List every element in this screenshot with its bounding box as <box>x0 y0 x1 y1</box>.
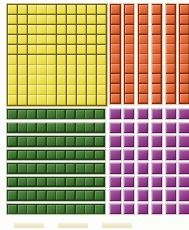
flat-unit-cell <box>87 95 96 104</box>
unit-cube-purple <box>166 136 177 146</box>
ten-rod-green <box>7 150 105 160</box>
flat-unit-cell <box>18 15 27 24</box>
rod-unit-cell <box>125 15 134 24</box>
flat-unit-cell <box>67 95 76 104</box>
unit-cube-purple <box>110 163 121 173</box>
flat-unit-cell <box>28 5 37 14</box>
flat-unit-cell <box>97 55 106 64</box>
rod-unit-cell <box>152 44 161 53</box>
rod-unit-cell <box>166 44 175 53</box>
ten-rod-orange <box>166 4 177 104</box>
rod-unit-cell <box>76 110 85 119</box>
flat-unit-cell <box>67 85 76 94</box>
hundred-flat-yellow <box>7 4 107 106</box>
rod-unit-cell <box>139 25 148 34</box>
rod-unit-cell <box>166 15 175 24</box>
rod-unit-cell <box>76 123 85 132</box>
rod-unit-cell <box>125 74 134 83</box>
rod-unit-cell <box>76 205 85 214</box>
flat-unit-cell <box>37 5 46 14</box>
rod-unit-cell <box>139 5 148 14</box>
rod-unit-cell <box>66 110 75 119</box>
rod-unit-cell <box>111 35 120 44</box>
flat-unit-cell <box>77 75 86 84</box>
flat-unit-cell <box>37 65 46 74</box>
rod-unit-cell <box>8 110 17 119</box>
rod-unit-cell <box>95 178 104 187</box>
rod-unit-cell <box>56 151 65 160</box>
rod-unit-cell <box>27 110 36 119</box>
unit-cube-purple <box>110 177 121 187</box>
flat-unit-cell <box>18 75 27 84</box>
flat-unit-cell <box>57 45 66 54</box>
rod-unit-cell <box>95 164 104 173</box>
flat-unit-cell <box>37 55 46 64</box>
unit-cube-purple <box>166 163 177 173</box>
legend-chip <box>102 223 132 228</box>
rod-unit-cell <box>85 123 94 132</box>
rod-unit-cell <box>76 137 85 146</box>
flat-unit-cell <box>67 65 76 74</box>
flat-unit-cell <box>57 55 66 64</box>
flat-unit-cell <box>28 15 37 24</box>
flat-unit-cell <box>87 45 96 54</box>
rod-unit-cell <box>56 205 65 214</box>
unit-cube-purple <box>179 163 189 173</box>
flat-unit-cell <box>87 65 96 74</box>
rod-unit-cell <box>95 123 104 132</box>
rod-unit-cell <box>111 84 120 93</box>
legend-chip <box>58 223 88 228</box>
rod-unit-cell <box>37 178 46 187</box>
rod-unit-cell <box>27 178 36 187</box>
flat-unit-cell <box>28 75 37 84</box>
ten-rod-green <box>7 204 105 214</box>
rod-unit-cell <box>125 84 134 93</box>
flat-unit-cell <box>57 5 66 14</box>
ten-rod-green <box>7 177 105 187</box>
unit-cube-purple <box>138 150 149 160</box>
unit-cube-purple <box>152 163 163 173</box>
flat-unit-cell <box>47 95 56 104</box>
rod-unit-cell <box>95 151 104 160</box>
flat-unit-cell <box>28 45 37 54</box>
rod-unit-cell <box>111 74 120 83</box>
unit-cube-purple <box>152 136 163 146</box>
unit-cube-purple <box>152 109 163 119</box>
rod-unit-cell <box>125 25 134 34</box>
flat-unit-cell <box>77 65 86 74</box>
flat-unit-cell <box>87 5 96 14</box>
ten-rods-orange-group <box>110 4 189 104</box>
unit-cube-purple <box>179 136 189 146</box>
rod-unit-cell <box>56 123 65 132</box>
rod-unit-cell <box>27 151 36 160</box>
rod-unit-cell <box>166 94 175 103</box>
rod-unit-cell <box>27 191 36 200</box>
rod-unit-cell <box>85 137 94 146</box>
unit-cubes-purple-group <box>110 109 189 214</box>
unit-cube-purple <box>138 204 149 214</box>
ten-rod-orange <box>179 4 189 104</box>
flat-unit-cell <box>47 25 56 34</box>
flat-unit-cell <box>57 85 66 94</box>
unit-cube-purple <box>152 177 163 187</box>
rod-unit-cell <box>180 54 189 63</box>
rod-unit-cell <box>85 151 94 160</box>
flat-unit-cell <box>97 45 106 54</box>
rod-unit-cell <box>166 84 175 93</box>
flat-unit-cell <box>47 35 56 44</box>
flat-unit-cell <box>97 75 106 84</box>
flat-unit-cell <box>8 45 17 54</box>
ten-rod-orange <box>124 4 135 104</box>
flat-unit-cell <box>18 35 27 44</box>
flat-unit-cell <box>77 55 86 64</box>
unit-cube-purple <box>179 177 189 187</box>
rod-unit-cell <box>85 205 94 214</box>
cut-off-legend-strip <box>0 218 189 230</box>
rod-unit-cell <box>125 54 134 63</box>
unit-cube-purple <box>110 204 121 214</box>
unit-cube-purple <box>124 190 135 200</box>
rod-unit-cell <box>139 54 148 63</box>
unit-cube-purple <box>179 109 189 119</box>
flat-unit-cell <box>8 95 17 104</box>
rod-unit-cell <box>111 64 120 73</box>
